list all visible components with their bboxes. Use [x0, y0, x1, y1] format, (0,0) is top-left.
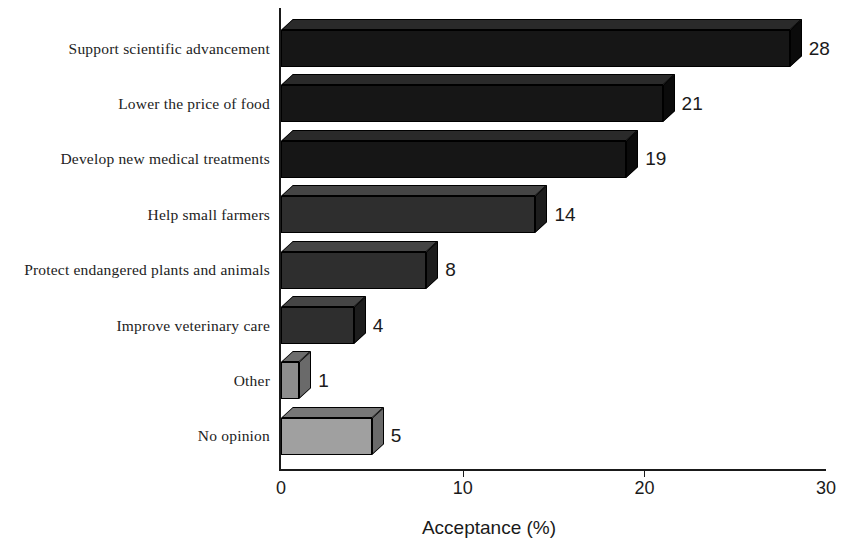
bar-front-face — [281, 141, 626, 178]
bar-value-label: 5 — [391, 426, 402, 445]
bar-value-label: 28 — [809, 39, 830, 58]
bar-chart: Support scientific advancementLower the … — [0, 0, 842, 557]
bar-top-face — [281, 241, 438, 252]
bar-value-label: 1 — [318, 371, 329, 390]
bar-value-label: 19 — [645, 149, 666, 168]
x-tick-label: 10 — [453, 479, 473, 497]
bar-6 — [281, 296, 366, 344]
bar-front-face — [281, 196, 535, 233]
x-tick-label: 30 — [816, 479, 836, 497]
bar-front-face — [281, 418, 372, 455]
bar-top-face — [281, 19, 802, 30]
bar-value-label: 14 — [554, 205, 575, 224]
x-axis-title: Acceptance (%) — [0, 518, 842, 537]
bar-front-face — [281, 252, 426, 289]
bar-8 — [281, 407, 384, 455]
bar-1 — [281, 19, 802, 67]
bar-2 — [281, 74, 675, 122]
bar-front-face — [281, 362, 299, 399]
bar-top-face — [281, 185, 547, 196]
bar-4 — [281, 185, 547, 233]
bar-top-face — [281, 74, 675, 85]
bar-3 — [281, 130, 638, 178]
bar-top-face — [281, 130, 638, 141]
bar-front-face — [281, 85, 663, 122]
bar-value-label: 21 — [682, 94, 703, 113]
bar-value-label: 8 — [445, 260, 456, 279]
x-axis-title-text: Acceptance (%) — [422, 517, 556, 538]
bar-5 — [281, 241, 438, 289]
x-tick-label: 20 — [634, 479, 654, 497]
bar-7 — [281, 351, 311, 399]
bar-side-face — [535, 185, 547, 233]
x-tick-label: 0 — [276, 479, 286, 497]
plot-area: 282119148415 0102030 Acceptance (%) — [0, 0, 842, 557]
bar-value-label: 4 — [373, 316, 384, 335]
x-tick-mark — [463, 471, 464, 477]
x-axis-line — [279, 469, 826, 471]
bar-side-face — [299, 351, 311, 399]
bar-front-face — [281, 30, 790, 67]
x-tick-mark — [644, 471, 645, 477]
bar-top-face — [281, 407, 384, 418]
bar-top-face — [281, 296, 366, 307]
bar-front-face — [281, 307, 354, 344]
